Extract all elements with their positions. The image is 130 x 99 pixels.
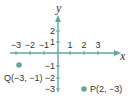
x-axis-label: x (119, 49, 126, 63)
x-tick-label: 1 (67, 40, 72, 50)
point-p-label: P(2, −3) (90, 84, 122, 94)
y-tick-label: 2 (50, 26, 55, 36)
y-tick-label: −2 (45, 73, 55, 83)
y-tick-label: −3 (45, 84, 55, 94)
y-tick-label: −1 (45, 61, 55, 71)
y-axis-arrow-icon (55, 15, 61, 22)
coordinate-plane: y x −3 −2 −1 1 2 3 2 1 −1 −2 −3 Q(−3, −1… (0, 0, 130, 99)
x-tick-label: −1 (39, 40, 49, 50)
x-tick-label: 3 (95, 40, 100, 50)
x-tick-label: −3 (11, 40, 21, 50)
point-p-marker (81, 86, 87, 92)
x-tick-label: 2 (81, 40, 86, 50)
point-q-label: Q(−3, −1) (4, 73, 43, 83)
y-tick-label: 1 (50, 37, 55, 47)
y-axis-label: y (55, 1, 62, 15)
x-tick-label: −2 (25, 40, 35, 50)
point-q-marker (16, 62, 22, 68)
